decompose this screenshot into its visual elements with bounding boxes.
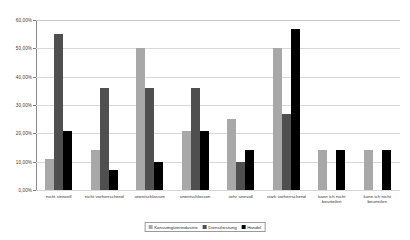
bar-2 (109, 170, 118, 190)
bar-0 (91, 150, 100, 190)
bar-1 (191, 88, 200, 190)
bar-2 (200, 131, 209, 191)
bar-2 (382, 150, 391, 190)
bar-0 (273, 48, 282, 190)
bar-0 (136, 48, 145, 190)
legend-swatch-icon (149, 225, 153, 229)
legend-label: Dienstleistung (208, 225, 236, 230)
bar-0 (227, 119, 236, 190)
bar-1 (100, 88, 109, 190)
bar-group (82, 20, 128, 190)
y-axis-tick-label: 30,00% (16, 103, 32, 108)
bar-group (36, 20, 82, 190)
bar-group (218, 20, 264, 190)
y-axis-tick (33, 190, 36, 191)
chart-legend: KonsumgüterindustrieDienstleistungHandel (145, 222, 266, 232)
x-axis-label: nicht vorherrschend (82, 194, 128, 199)
legend-swatch-icon (203, 225, 207, 229)
y-axis-tick-label: 60,00% (16, 18, 32, 23)
bar-1 (282, 114, 291, 191)
bar-group (355, 20, 401, 190)
x-axis-label: kann ich nicht beurteilen (355, 194, 401, 205)
bar-0 (45, 159, 54, 190)
x-axis-label: unentschlossen (173, 194, 219, 199)
bar-0 (182, 131, 191, 191)
bar-2 (291, 29, 300, 191)
x-axis-label: nicht sinnvoll (36, 194, 82, 199)
legend-swatch-icon (242, 225, 246, 229)
legend-item: Konsumgüterindustrie (149, 225, 198, 230)
bar-2 (154, 162, 163, 190)
y-axis-tick-label: 50,00% (16, 46, 32, 51)
bar-2 (245, 150, 254, 190)
legend-item: Handel (242, 225, 262, 230)
legend-item: Dienstleistung (203, 225, 237, 230)
x-axis-label: sehr sinnvoll (218, 194, 264, 199)
bar-2 (63, 131, 72, 191)
y-axis-tick-label: 40,00% (16, 74, 32, 79)
y-axis-tick-label: 10,00% (16, 159, 32, 164)
y-axis-tick-label: 20,00% (16, 131, 32, 136)
y-axis-tick-label: 0,00% (18, 188, 32, 193)
bar-1 (236, 162, 245, 190)
x-axis-label: stark vorherrschend (264, 194, 310, 199)
bar-chart: 0,00%10,00%20,00%30,00%40,00%50,00%60,00… (0, 0, 410, 240)
bar-1 (54, 34, 63, 190)
bar-2 (336, 150, 345, 190)
bar-0 (318, 150, 327, 190)
bar-group (127, 20, 173, 190)
legend-label: Handel (247, 225, 261, 230)
gridline (36, 190, 400, 191)
bar-1 (145, 88, 154, 190)
x-axis-label: unentschlossen (127, 194, 173, 199)
legend-label: Konsumgüterindustrie (154, 225, 198, 230)
bar-group (173, 20, 219, 190)
x-axis-label: kann ich nicht beurteilen (309, 194, 355, 205)
bar-0 (364, 150, 373, 190)
plot-area: 0,00%10,00%20,00%30,00%40,00%50,00%60,00… (36, 20, 400, 190)
bar-group (309, 20, 355, 190)
bar-group (264, 20, 310, 190)
